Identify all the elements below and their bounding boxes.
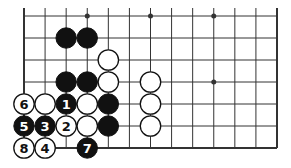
stone-disc (56, 72, 76, 92)
black-stone-1: 1 (56, 94, 76, 114)
stone-disc (140, 94, 160, 114)
go-board-diagram: 61532847 (0, 0, 291, 168)
black-stone (77, 72, 97, 92)
white-stone-2: 2 (56, 116, 76, 136)
move-number: 7 (83, 141, 92, 156)
black-stone (56, 28, 76, 48)
white-stone (35, 94, 55, 114)
white-stone (98, 50, 118, 70)
stone-disc (140, 72, 160, 92)
star-point (211, 80, 216, 85)
move-number: 5 (19, 119, 28, 134)
black-stone-3: 3 (35, 116, 55, 136)
stone-disc (98, 116, 118, 136)
white-stone (77, 116, 97, 136)
black-stone (77, 28, 97, 48)
star-point (211, 14, 216, 19)
black-stone (56, 72, 76, 92)
black-stone-5: 5 (14, 116, 34, 136)
stone-disc (98, 50, 118, 70)
stone-disc (140, 116, 160, 136)
stone-disc (98, 72, 118, 92)
stone-disc (35, 94, 55, 114)
white-stone-4: 4 (35, 138, 55, 158)
stone-disc (77, 28, 97, 48)
white-stone-6: 6 (14, 94, 34, 114)
white-stone (140, 94, 160, 114)
black-stone (98, 116, 118, 136)
black-stone-7: 7 (77, 138, 97, 158)
black-stone (98, 94, 118, 114)
move-number: 3 (41, 119, 50, 134)
white-stone-8: 8 (14, 138, 34, 158)
move-number: 4 (41, 141, 50, 156)
move-number: 2 (62, 119, 71, 134)
white-stone (77, 94, 97, 114)
move-number: 8 (19, 141, 28, 156)
stone-disc (77, 116, 97, 136)
white-stone (140, 116, 160, 136)
white-stone (98, 72, 118, 92)
move-number: 1 (62, 97, 71, 112)
stone-disc (56, 28, 76, 48)
stone-disc (98, 94, 118, 114)
stone-disc (77, 94, 97, 114)
stone-disc (77, 72, 97, 92)
move-number: 6 (19, 97, 28, 112)
white-stone (140, 72, 160, 92)
star-point (85, 14, 90, 19)
star-point (148, 14, 153, 19)
